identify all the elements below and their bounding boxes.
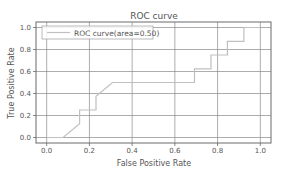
legend: ROC curve(area=0.50) xyxy=(42,26,159,39)
y-tick-label: 0.0 xyxy=(20,134,31,142)
y-tick-label: 0.2 xyxy=(20,112,31,120)
y-axis-label: True Positive Rate xyxy=(7,47,16,119)
roc-chart: ROC curve 0.00.20.40.60.81.0 0.00.20.40.… xyxy=(0,0,283,182)
x-tick-label: 0.4 xyxy=(127,147,139,155)
y-tick-label: 0.8 xyxy=(20,46,31,54)
roc-curve-line xyxy=(47,28,261,138)
x-tick-label: 1.0 xyxy=(255,147,266,155)
x-tick-label: 0.6 xyxy=(169,147,181,155)
chart-title: ROC curve xyxy=(130,11,178,21)
x-axis-label: False Positive Rate xyxy=(117,159,191,168)
x-axis-ticks: 0.00.20.40.60.81.0 xyxy=(41,143,266,155)
x-tick-label: 0.0 xyxy=(41,147,52,155)
y-axis-ticks: 0.00.20.40.60.81.0 xyxy=(20,24,36,142)
y-tick-label: 0.6 xyxy=(20,68,32,76)
legend-label: ROC curve(area=0.50) xyxy=(74,29,159,38)
y-tick-label: 1.0 xyxy=(20,24,31,32)
x-tick-label: 0.2 xyxy=(84,147,95,155)
x-tick-label: 0.8 xyxy=(212,147,223,155)
y-tick-label: 0.4 xyxy=(20,90,32,98)
